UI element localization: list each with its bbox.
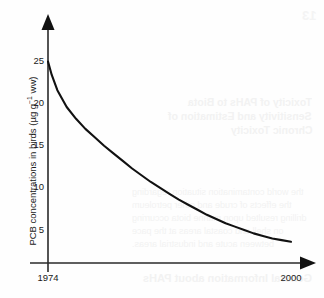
plot-svg [0,0,324,298]
pcb-decay-curve [48,62,291,242]
y-axis-arrow-icon [42,14,55,30]
x-axis-arrow-icon [300,257,316,270]
pcb-decay-chart: PCB concentrations in birds (µg g−1 ww) … [0,0,324,298]
figure-panel: 13 Toxicity of PAHs to Biota Sensitivity… [0,0,324,298]
